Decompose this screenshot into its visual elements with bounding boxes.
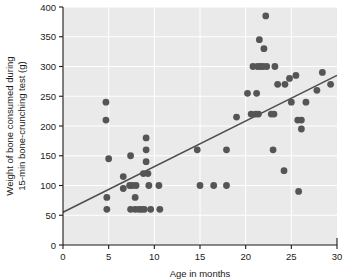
data-point	[274, 81, 281, 88]
y-axis-tick-label: 100	[40, 180, 56, 191]
x-axis-tick-label: 10	[149, 251, 160, 262]
data-point	[255, 111, 262, 118]
data-point	[281, 167, 288, 174]
y-axis-tick-label: 150	[40, 150, 56, 161]
data-point	[319, 69, 326, 76]
data-point	[197, 182, 204, 189]
y-axis-title-line2: 15-min bone-crunching test (g)	[16, 61, 27, 190]
data-point	[194, 146, 201, 153]
data-point	[156, 182, 163, 189]
x-axis-tick-label: 5	[106, 251, 111, 262]
data-point	[298, 126, 305, 133]
data-point	[143, 135, 150, 142]
data-point	[143, 146, 150, 153]
data-point	[105, 155, 112, 162]
data-point	[223, 182, 230, 189]
data-point	[298, 117, 305, 124]
data-point	[145, 170, 152, 177]
data-point	[244, 90, 251, 97]
data-point	[132, 194, 139, 201]
y-axis-tick-label: 350	[40, 31, 56, 42]
data-point	[270, 146, 277, 153]
x-axis-title: Age in months	[170, 268, 231, 279]
x-axis-tick-label: 15	[195, 251, 206, 262]
y-axis-tick-label: 400	[40, 2, 56, 13]
data-point	[261, 45, 268, 52]
data-point	[303, 99, 310, 106]
scatter-plot-figure: 050100150200250300350400051015202530 Age…	[0, 0, 344, 280]
chart-canvas: 050100150200250300350400051015202530 Age…	[0, 0, 344, 280]
data-point	[327, 81, 334, 88]
x-axis-tick-label: 20	[240, 251, 251, 262]
data-point	[314, 87, 321, 94]
x-axis-tick-label: 25	[286, 251, 297, 262]
y-axis-tick-label: 250	[40, 91, 56, 102]
data-point	[286, 75, 293, 82]
data-point	[271, 63, 278, 70]
data-point	[282, 81, 289, 88]
data-point	[256, 36, 263, 43]
data-point	[233, 114, 240, 121]
y-axis-tick-label: 0	[51, 240, 56, 251]
x-axis-tick-label: 0	[60, 251, 65, 262]
y-axis-tick-label: 300	[40, 61, 56, 72]
data-point	[103, 206, 110, 213]
data-point	[103, 117, 110, 124]
data-point	[262, 13, 269, 20]
data-point	[127, 152, 134, 159]
data-point	[145, 182, 152, 189]
data-point	[143, 158, 150, 165]
data-point	[156, 206, 163, 213]
data-point	[253, 90, 260, 97]
data-point	[141, 206, 148, 213]
data-point	[210, 182, 217, 189]
data-point	[120, 185, 127, 192]
y-axis-title-line1: Weight of bone consumed during	[4, 56, 15, 195]
data-point	[133, 182, 140, 189]
data-point	[295, 188, 302, 195]
data-point	[263, 63, 270, 70]
data-point	[103, 99, 110, 106]
data-point	[288, 99, 295, 106]
y-axis-tick-label: 200	[40, 121, 56, 132]
x-axis-tick-label: 30	[332, 251, 343, 262]
data-point	[120, 173, 127, 180]
y-axis-tick-label: 50	[45, 210, 56, 221]
data-point	[223, 146, 230, 153]
data-point	[103, 194, 110, 201]
data-point	[271, 111, 278, 118]
data-point	[147, 206, 154, 213]
data-point	[293, 72, 300, 79]
